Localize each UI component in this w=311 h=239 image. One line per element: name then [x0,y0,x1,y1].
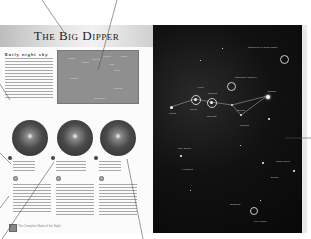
galaxy-sphere-2 [57,120,93,156]
star-alkaid [170,106,173,109]
body-column-3 [99,184,137,217]
star-label: Merak [237,109,245,112]
megrez-ring [207,98,217,108]
star [222,48,223,49]
number-badge-3 [94,156,98,160]
sky-label: Alioth [108,63,114,66]
number-badge-1 [8,156,12,160]
star-label: Draco [271,176,279,179]
galaxy-sphere-1 [12,120,48,156]
body-column-1 [13,184,51,214]
star-label: Arcturus [182,168,193,171]
star [262,162,264,164]
star-label: Mizar [190,108,197,111]
star [260,200,261,201]
page-edge [302,25,307,233]
star-label: Ursa Minor [276,160,290,163]
caption-3 [99,161,121,173]
whirlpool-ring [227,82,236,91]
regulus-ring [250,207,258,215]
caption-2 [56,161,86,173]
galaxy-sphere-3 [100,120,136,156]
star [200,60,201,61]
star [240,145,241,146]
ursa-galaxies-ring [280,55,289,64]
star-dubhe [266,95,270,99]
star-label: Megrez [208,92,218,95]
sky-label: Megrez [103,55,111,58]
star-label: Whirlpool Galaxy [235,76,257,79]
intro-paragraph [5,58,53,100]
star-label: Regulus [230,203,241,206]
star-label: Galaxies in Ursa Major [248,46,278,49]
star-label: Phecda [207,115,217,118]
sky-label: Cor Caroli [94,97,105,100]
footer-text: The Complete Book of the Night [18,224,61,228]
star-label: Cor Caroli [178,147,191,150]
section-heading: Early night sky [5,52,48,57]
sky-label: Alkaid [120,55,127,58]
star [268,118,270,120]
number-badge-2 [51,156,55,160]
caption-1 [13,161,35,173]
star-merak [240,114,242,116]
sky-chart: Dubhe Merak Phecda Megrez Alioth Mizar A… [57,50,139,104]
sky-label: Phecda [92,58,100,61]
star-label: Dubhe [268,90,276,93]
star [190,190,191,191]
footer-logo-icon [9,224,17,232]
sky-label: Merak [82,61,89,64]
sky-label: Polaris [70,77,78,80]
star [293,170,295,172]
globe-icon [13,176,18,181]
star-phecda [231,104,233,106]
globe-icon [99,176,104,181]
left-page: The Big Dipper Early night sky Dubhe Mer… [0,25,154,233]
book-spread: The Big Dipper Early night sky Dubhe Mer… [0,25,311,233]
mizar-ring [191,95,201,105]
body-column-2 [56,184,94,217]
star-label: Leo Minor [254,220,267,223]
globe-icon [56,176,61,181]
page-title: The Big Dipper [0,28,153,44]
sky-label: Mizar [114,69,120,72]
sky-label: Dubhe [68,57,75,60]
star [180,155,182,157]
star-label: Alcor [197,86,204,89]
star-label: Alkaid [168,112,176,115]
star-label: Polaris [240,124,249,127]
sky-label: Arcturus [113,87,122,90]
